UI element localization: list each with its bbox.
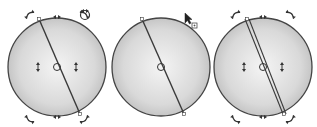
pointer-arrow — [185, 13, 192, 24]
panel-result — [214, 10, 312, 125]
diagram-canvas — [0, 0, 317, 127]
panel-dragging — [112, 13, 210, 116]
rotate-handle-bottom-left[interactable] — [230, 115, 240, 124]
node-end[interactable] — [183, 113, 186, 116]
node-start[interactable] — [246, 18, 249, 21]
node-start[interactable] — [38, 18, 41, 21]
node-end[interactable] — [283, 113, 286, 116]
rotate-handle-bottom-right[interactable] — [286, 115, 296, 124]
rotate-handle-top-left[interactable] — [24, 10, 34, 19]
rotate-tool-icon[interactable] — [81, 9, 90, 20]
sphere — [112, 18, 210, 116]
rotate-handle-bottom-left[interactable] — [24, 115, 34, 124]
rotate-handle-bottom-right[interactable] — [80, 115, 90, 124]
panel-rotate-mode — [8, 9, 106, 124]
rotate-handle-top-left[interactable] — [230, 10, 240, 19]
sphere — [214, 18, 312, 116]
node-start[interactable] — [141, 18, 144, 21]
sphere — [8, 18, 106, 116]
node-end[interactable] — [79, 113, 82, 116]
rotate-handle-top-right[interactable] — [286, 10, 296, 19]
rotate-tool-ring — [81, 11, 90, 20]
